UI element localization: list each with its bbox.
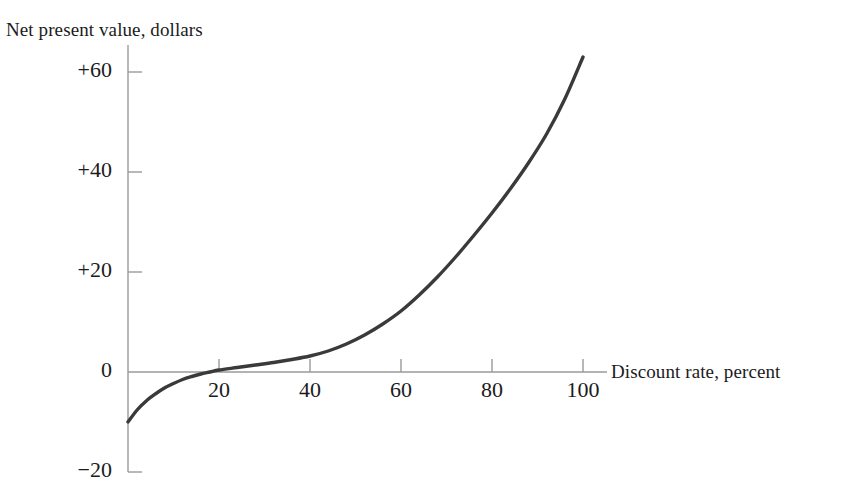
y-tick-label--20: −20 xyxy=(28,457,112,483)
axis-layer xyxy=(128,45,607,472)
y-tick-label-0: 0 xyxy=(28,357,112,383)
y-tick-label-60: +60 xyxy=(28,57,112,83)
x-tick-label-40: 40 xyxy=(275,377,345,403)
y-axis-title: Net present value, dollars xyxy=(6,19,203,41)
data-curve-layer xyxy=(128,57,583,422)
y-tick-label-40: +40 xyxy=(28,157,112,183)
y-tick-label-20: +20 xyxy=(28,257,112,283)
net-present-value-line-chart xyxy=(0,0,859,496)
x-tick-label-20: 20 xyxy=(184,377,254,403)
x-axis-title: Discount rate, percent xyxy=(611,361,780,383)
x-tick-label-60: 60 xyxy=(366,377,436,403)
x-tick-label-80: 80 xyxy=(457,377,527,403)
tick-marks xyxy=(128,72,583,472)
series-line-0 xyxy=(128,57,583,422)
chart-container: Net present value, dollars Discount rate… xyxy=(0,0,859,496)
x-tick-label-100: 100 xyxy=(548,377,618,403)
